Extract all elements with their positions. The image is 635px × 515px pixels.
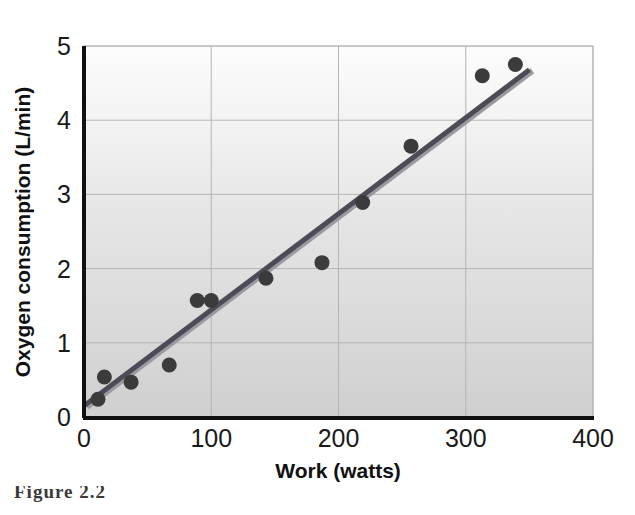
data-point — [314, 255, 329, 270]
x-tick-label: 400 — [572, 424, 614, 452]
data-point — [475, 68, 490, 83]
y-tick-label: 5 — [57, 32, 71, 60]
x-tick-label: 200 — [318, 424, 360, 452]
y-tick-label: 0 — [57, 403, 71, 431]
x-tick-label: 100 — [190, 424, 232, 452]
y-tick-label: 1 — [57, 329, 71, 357]
y-axis-tick-labels: 012345 — [57, 32, 71, 431]
y-tick-label: 3 — [57, 180, 71, 208]
figure-caption-clip: Figure 2.2 — [0, 486, 635, 515]
data-point — [355, 195, 370, 210]
x-axis-title: Work (watts) — [275, 459, 401, 482]
data-point — [258, 271, 273, 286]
data-point — [97, 369, 112, 384]
y-axis-title: Oxygen consumption (L/min) — [11, 87, 34, 378]
y-tick-label: 4 — [57, 106, 71, 134]
figure-container: 0100200300400 012345 Work (watts) Oxygen… — [0, 0, 635, 515]
data-point — [204, 293, 219, 308]
data-point — [162, 358, 177, 373]
data-point — [404, 139, 419, 154]
caption-number: 2.2 — [79, 486, 106, 502]
data-point — [90, 392, 105, 407]
y-tick-label: 2 — [57, 255, 71, 283]
data-point — [508, 57, 523, 72]
data-point — [190, 293, 205, 308]
scatter-plot: 0100200300400 012345 Work (watts) Oxygen… — [0, 0, 635, 515]
figure-caption: Figure 2.2 — [14, 486, 106, 503]
data-point — [124, 375, 139, 390]
x-tick-label: 300 — [445, 424, 487, 452]
x-tick-label: 0 — [77, 424, 91, 452]
x-axis-tick-labels: 0100200300400 — [77, 424, 614, 452]
caption-prefix: Figure — [14, 486, 73, 502]
